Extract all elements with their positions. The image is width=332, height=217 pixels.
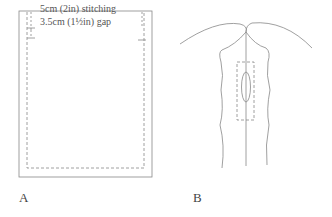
dashed-stitch-line <box>27 12 144 168</box>
right-arc <box>246 23 312 48</box>
outer-rectangle <box>19 11 152 177</box>
figure-b-drawing <box>180 23 312 168</box>
gap-annotation: 3.5cm (1½in) gap <box>40 16 111 27</box>
figure-label-a: A <box>19 190 28 206</box>
left-wavy-edge <box>220 32 246 168</box>
left-arc <box>180 23 246 44</box>
figure-label-b: B <box>193 190 202 206</box>
figure-a-drawing <box>19 11 152 177</box>
stitching-annotation: 5cm (2in) stitching <box>40 3 116 14</box>
dashed-rectangle <box>237 62 254 120</box>
right-wavy-edge <box>246 32 270 165</box>
diagram-canvas <box>0 0 332 217</box>
